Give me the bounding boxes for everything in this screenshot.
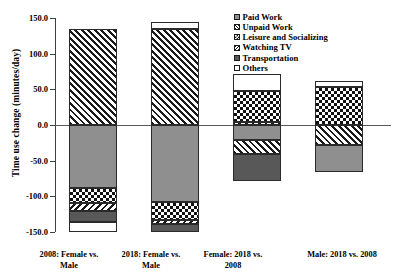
- segment-transportation[interactable]: [69, 211, 117, 222]
- segment-unpaid-work[interactable]: [233, 140, 281, 154]
- y-tick-label-neg150: -150.0: [8, 228, 48, 237]
- plot-area: [55, 0, 393, 245]
- x-category-label-3-line2: 2008: [181, 260, 285, 271]
- legend-item-unpaid-work[interactable]: Unpaid Work: [234, 22, 328, 32]
- x-category-label-4: Male: 2018 vs. 2008: [290, 249, 394, 260]
- segment-others[interactable]: [69, 222, 117, 232]
- legend-item-leisure-and-socializing[interactable]: Leisure and Socializing: [234, 32, 328, 42]
- segment-leisure-and-socializing[interactable]: [151, 202, 199, 220]
- legend-label-paid-work: Paid Work: [243, 13, 283, 22]
- segment-unpaid-work[interactable]: [151, 29, 199, 125]
- y-tick-label-50: 50.0: [8, 85, 48, 94]
- segment-transportation[interactable]: [151, 224, 199, 232]
- x-category-label-4-line1: Male: 2018 vs. 2008: [290, 249, 394, 260]
- legend-label-unpaid-work: Unpaid Work: [243, 23, 293, 32]
- solid-gray-swatch-icon: [234, 14, 240, 20]
- reverse-diagonal-stripe-swatch-icon: [234, 45, 240, 51]
- y-tick-label-0: 0.0: [8, 121, 48, 130]
- stacked-bar-chart: Time use change (minutes/day) 150.0 100.…: [0, 0, 397, 280]
- segment-paid-work[interactable]: [151, 125, 199, 202]
- x-category-label-3: Female: 2018 vs. 2008: [181, 249, 285, 271]
- legend-item-transportation[interactable]: Transportation: [234, 53, 328, 63]
- legend-item-watching-tv[interactable]: Watching TV: [234, 43, 328, 53]
- legend-label-watching-tv: Watching TV: [243, 43, 292, 52]
- segment-leisure-and-socializing[interactable]: [233, 91, 281, 122]
- y-axis-title: Time use change (minutes/day): [11, 13, 21, 213]
- white-swatch-icon: [234, 65, 240, 71]
- segment-others[interactable]: [151, 22, 199, 29]
- legend-label-leisure-and-socializing: Leisure and Socializing: [243, 33, 328, 42]
- legend: Paid Work Unpaid Work Leisure and Social…: [234, 12, 328, 73]
- y-tick-label-neg50: -50.0: [8, 157, 48, 166]
- y-tick-label-100: 100.0: [8, 50, 48, 59]
- legend-label-transportation: Transportation: [243, 54, 299, 63]
- legend-label-others: Others: [243, 64, 268, 73]
- checkerboard-swatch-icon: [234, 34, 240, 40]
- segment-paid-work[interactable]: [233, 125, 281, 140]
- segment-transportation[interactable]: [233, 154, 281, 181]
- y-tick-label-150: 150.0: [8, 14, 48, 23]
- solid-dark-gray-swatch-icon: [234, 55, 240, 61]
- y-tick-label-neg100: -100.0: [8, 192, 48, 201]
- diagonal-stripe-swatch-icon: [234, 24, 240, 30]
- segment-paid-work[interactable]: [315, 145, 363, 172]
- segment-unpaid-work[interactable]: [69, 29, 117, 125]
- segment-paid-work[interactable]: [69, 125, 117, 188]
- segment-watching-tv[interactable]: [69, 203, 117, 211]
- segment-leisure-and-socializing[interactable]: [315, 87, 363, 125]
- segment-others[interactable]: [233, 74, 281, 91]
- segment-unpaid-work[interactable]: [315, 125, 363, 145]
- legend-item-others[interactable]: Others: [234, 63, 328, 73]
- segment-leisure-and-socializing[interactable]: [69, 188, 117, 203]
- x-category-label-3-line1: Female: 2018 vs.: [181, 249, 285, 260]
- legend-item-paid-work[interactable]: Paid Work: [234, 12, 328, 22]
